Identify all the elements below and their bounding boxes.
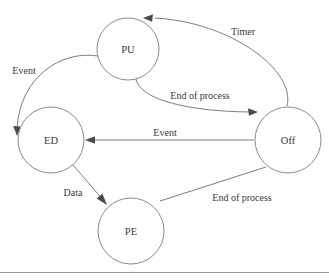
edge-label-timer: Timer — [231, 26, 256, 37]
edge-label-data: Data — [64, 187, 83, 198]
state-node-pu-label: PU — [121, 44, 135, 55]
state-node-off-label: Off — [281, 135, 296, 146]
state-node-pe[interactable]: PE — [98, 198, 164, 264]
edge-ed-to-pe-arrowhead — [97, 194, 107, 205]
edge-pu-to-off-arrowhead — [248, 108, 258, 116]
state-node-pu[interactable]: PU — [97, 18, 159, 80]
state-diagram-figure: PU ED Off PE Timer End of process Event … — [0, 0, 329, 280]
nodes-layer: PU ED Off PE — [18, 18, 321, 264]
state-node-off[interactable]: Off — [255, 107, 321, 173]
edge-off-to-pu-arrowhead — [143, 14, 153, 22]
diagram-canvas: PU ED Off PE Timer End of process Event … — [0, 0, 329, 280]
state-node-ed[interactable]: ED — [18, 107, 84, 173]
state-node-pe-label: PE — [125, 226, 137, 237]
edge-off-to-ed-arrowhead — [85, 136, 95, 144]
edge-label-event-left: Event — [12, 65, 36, 76]
edge-ed-to-pe — [73, 165, 107, 205]
edge-label-event-middle: Event — [153, 127, 177, 138]
edge-label-end-of-process-lower: End of process — [212, 192, 272, 203]
edge-label-end-of-process-upper: End of process — [170, 90, 230, 101]
state-node-ed-label: ED — [44, 135, 58, 146]
figure-bottom-rule — [0, 272, 329, 273]
